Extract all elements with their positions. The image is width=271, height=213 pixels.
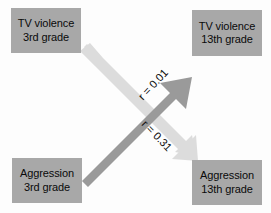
node-tv-violence-3rd-grade: TV violence 3rd grade [11, 8, 81, 53]
node-label-line2: 3rd grade [24, 181, 70, 195]
node-label-line1: TV violence [199, 20, 255, 34]
node-aggression-13th-grade: Aggression 13th grade [192, 160, 262, 205]
node-label-line1: Aggression [200, 169, 254, 183]
node-label-line1: TV violence [18, 17, 74, 31]
cross-lagged-panel-figure: TV violence 3rd grade TV violence 13th g… [0, 0, 271, 213]
node-label-line2: 13th grade [201, 33, 253, 47]
node-label-line2: 3rd grade [23, 31, 69, 45]
node-label-line2: 13th grade [201, 183, 253, 197]
node-tv-violence-13th-grade: TV violence 13th grade [192, 10, 262, 56]
node-label-line1: Aggression [20, 167, 74, 181]
node-aggression-3rd-grade: Aggression 3rd grade [12, 158, 82, 203]
